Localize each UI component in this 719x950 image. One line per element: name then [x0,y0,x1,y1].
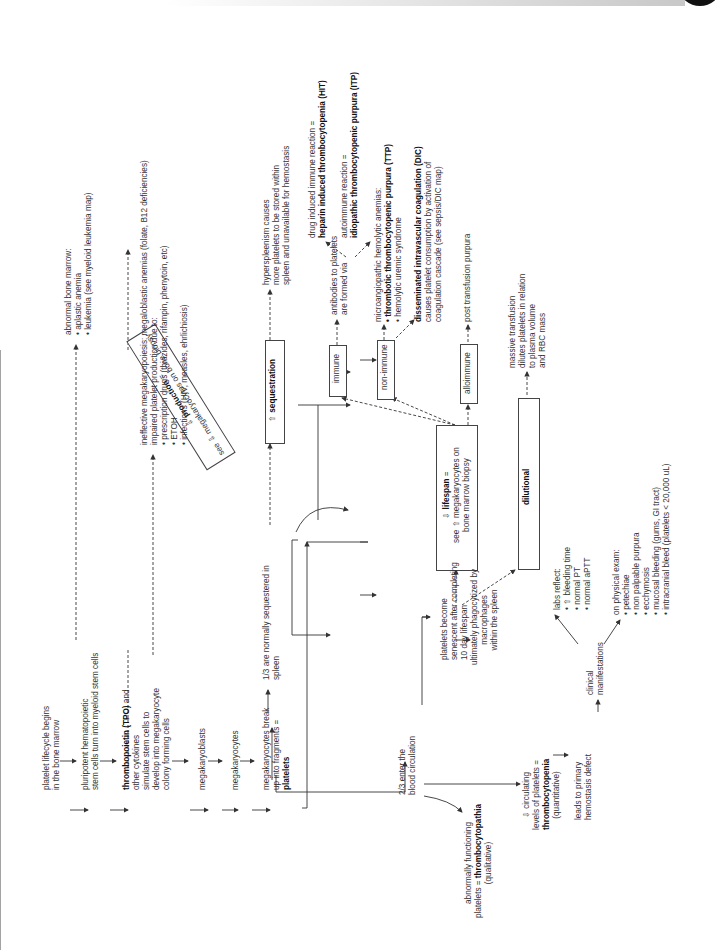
phagocytized-note: ultimately phagocytized by macrophages w… [470,575,500,665]
post-transfusion-note: post transfusion purpura [463,234,473,322]
hemostasis-defect-note: leads to primaryhemostasis defect [574,754,594,820]
lifespan-label: ⇩ lifespan = see ⇧ megakaryocytes on bon… [442,445,472,545]
thrombocytopenia-note: ⇩ circulating levels of platelets = thro… [522,760,562,830]
lifecycle-step-6: megakaryocytes break up into fragments =… [262,708,292,790]
thrombocytopathia-note: abnormally functioning platelets = throm… [464,808,494,918]
lifecycle-step-2: pluripotent hematopoieticstem cells turn… [81,653,101,790]
dilutional-label: dilutional [522,469,532,505]
two-thirds-circulation: 2/3 enter theblood circulation [398,736,418,795]
dic-note: disseminated intravascular coagulation (… [414,146,444,322]
non-immune-label: non-immune [380,344,390,390]
immune-label: immune [332,354,342,383]
lifecycle-step-5: megakaryocytes [231,730,241,790]
clinical-manifestations: clinicalmanifestations [586,642,606,695]
hypersplenism-note: hyperspleenism causes more platelets to … [262,146,292,285]
itp-note: autoimmune reaction =idiopathic thromboc… [340,72,360,238]
alloimmune-label: alloimmune [463,352,473,394]
microangiopathic-note: microangiopathic hemolytic anemias: thro… [374,144,404,322]
labs-reflect: labs reflect: ⇧ bleeding timenormal PTno… [553,547,593,610]
abnormal-bone-marrow: abnormal bone marrow: aplastic anemialeu… [64,192,94,335]
lifecycle-step-3: thrombopoietin (TPO) and other cytokines… [122,688,172,790]
lifecycle-step-4: megakaryoblasts [198,728,208,790]
one-third-spleen: 1/3 are normally sequestered inspleen [262,565,282,680]
antibodies-note: antibodies to plateletsare formed via [330,236,350,315]
massive-transfusion-note: massive transfusion dilutes platelets in… [508,274,548,368]
hit-note: drug induced immune reaction =heparin in… [308,80,328,238]
lifecycle-step-1: platelet lifecycle beginsin the bone mar… [42,706,62,790]
ineffective-megakaryopoiesis: ineffective megakaryopoiesis: megaloblas… [140,160,190,445]
senescent-note: platelets become senescent after complet… [440,562,470,660]
sequestration-label: ⇧ sequestration [268,359,278,422]
physical-exam: on physical exam: petechiae non palpable… [612,464,672,616]
